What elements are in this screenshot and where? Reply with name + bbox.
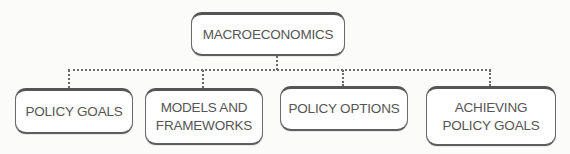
connector-drop-policy-options bbox=[342, 70, 344, 86]
child-node-label: MODELS AND FRAMEWORKS bbox=[156, 99, 252, 135]
child-node-models-and-frameworks: MODELS AND FRAMEWORKS bbox=[145, 88, 263, 145]
connector-drop-policy-goals bbox=[68, 70, 70, 88]
connector-drop-achieving-policy-goals bbox=[489, 70, 491, 86]
child-node-achieving-policy-goals: ACHIEVING POLICY GOALS bbox=[426, 86, 556, 146]
child-node-policy-options: POLICY OPTIONS bbox=[280, 86, 408, 131]
connector-root-drop bbox=[276, 56, 278, 70]
diagram-canvas: MACROECONOMICS POLICY GOALS MODELS AND F… bbox=[0, 0, 570, 154]
child-node-label: POLICY GOALS bbox=[25, 103, 122, 121]
root-node-macroeconomics: MACROECONOMICS bbox=[191, 12, 345, 56]
child-node-policy-goals: POLICY GOALS bbox=[15, 88, 133, 134]
child-node-label: ACHIEVING POLICY GOALS bbox=[442, 99, 539, 135]
root-node-label: MACROECONOMICS bbox=[203, 26, 334, 44]
connector-horizontal-bus bbox=[68, 69, 491, 71]
child-node-label: POLICY OPTIONS bbox=[289, 100, 400, 118]
connector-drop-models-frameworks bbox=[202, 70, 204, 88]
